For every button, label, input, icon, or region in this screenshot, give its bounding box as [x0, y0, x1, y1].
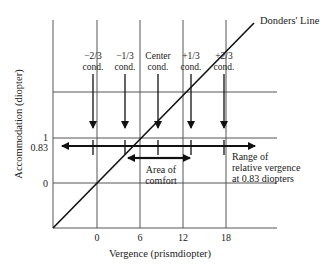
- cond-label-p13-2: cond.: [181, 62, 202, 72]
- comfort-label-1: Area of: [146, 164, 177, 175]
- x-axis-label: Vergence (prismdiopter): [109, 248, 212, 260]
- cond-label-m13-2: cond.: [115, 62, 136, 72]
- condition-ticks: [93, 140, 224, 155]
- cond-label-m23-1: −2/3: [84, 51, 102, 61]
- cond-label-p23-1: +2/3: [215, 51, 233, 61]
- y-tick-0: 0: [43, 178, 48, 189]
- comfort-label-2: comfort: [145, 175, 177, 186]
- cond-label-center-2: cond.: [148, 62, 169, 72]
- x-tick-18: 18: [221, 232, 231, 243]
- x-tick-6: 6: [138, 232, 143, 243]
- cond-label-m23-2: cond.: [83, 62, 104, 72]
- cond-label-center-1: Center: [145, 51, 171, 61]
- cond-label-p23-2: cond.: [214, 62, 235, 72]
- range-label-1: Range of: [232, 151, 269, 162]
- x-tick-12: 12: [178, 232, 188, 243]
- cond-label-p13-1: +1/3: [182, 51, 200, 61]
- range-label-2: relative vergence: [232, 162, 301, 173]
- donders-line-label: Donders' Line: [260, 15, 320, 26]
- y-tick-083: 0.83: [31, 142, 49, 153]
- x-tick-0: 0: [95, 232, 100, 243]
- condition-arrows: [93, 74, 224, 128]
- vergence-accommodation-diagram: Donders' Line −2/3 cond. −1/3 cond. Cent…: [0, 0, 326, 270]
- cond-label-m13-1: −1/3: [116, 51, 134, 61]
- y-axis-label: Accommodation (diopter): [13, 69, 25, 179]
- range-label-3: at 0.83 diopters: [232, 173, 294, 184]
